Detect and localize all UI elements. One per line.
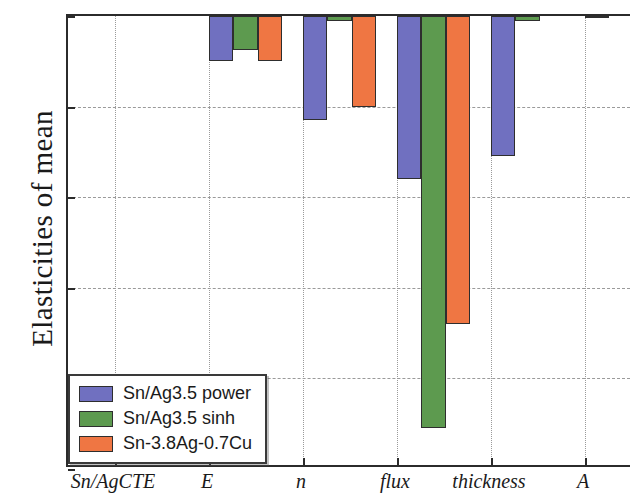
x-tick-mark bbox=[397, 458, 399, 465]
legend-item: Sn/Ag3.5 power bbox=[79, 381, 252, 406]
bar bbox=[515, 16, 539, 21]
x-tick-label: E bbox=[201, 470, 213, 493]
bar bbox=[352, 16, 376, 107]
x-tick-label: n bbox=[296, 470, 306, 493]
y-tick-mark bbox=[68, 197, 75, 199]
x-tick-mark bbox=[585, 458, 587, 465]
legend-item: Sn/Ag3.5 sinh bbox=[79, 406, 252, 431]
legend-item: Sn-3.8Ag-0.7Cu bbox=[79, 431, 252, 456]
x-tick-label: flux bbox=[380, 470, 410, 493]
legend-swatch bbox=[79, 436, 113, 452]
x-tick-label: A bbox=[577, 470, 589, 493]
legend-label: Sn/Ag3.5 sinh bbox=[123, 408, 235, 429]
bar bbox=[209, 16, 233, 61]
gridline-vertical bbox=[585, 16, 586, 465]
bar bbox=[585, 16, 609, 18]
bar bbox=[303, 16, 327, 120]
x-tick-mark bbox=[303, 458, 305, 465]
legend-label: Sn-3.8Ag-0.7Cu bbox=[123, 433, 252, 454]
bar bbox=[397, 16, 421, 179]
chart-figure: Elasticities of mean 0.0-0.2-0.4-0.6-0.8… bbox=[0, 0, 632, 494]
legend-swatch bbox=[79, 386, 113, 402]
y-tick-mark bbox=[68, 107, 75, 109]
bar bbox=[233, 16, 257, 50]
x-tick-mark bbox=[491, 458, 493, 465]
bar bbox=[421, 16, 445, 428]
bar bbox=[258, 16, 282, 61]
x-tick-label: Sn/AgCTE bbox=[71, 470, 155, 493]
bar bbox=[491, 16, 515, 156]
x-tick-label: thickness bbox=[452, 470, 525, 493]
bar bbox=[327, 16, 351, 21]
bar bbox=[446, 16, 470, 324]
gridline-horizontal bbox=[68, 197, 630, 198]
gridline-horizontal bbox=[68, 288, 630, 289]
chart-legend: Sn/Ag3.5 powerSn/Ag3.5 sinhSn-3.8Ag-0.7C… bbox=[68, 374, 267, 464]
legend-swatch bbox=[79, 411, 113, 427]
y-tick-mark bbox=[68, 16, 75, 18]
y-tick-mark bbox=[68, 288, 75, 290]
legend-label: Sn/Ag3.5 power bbox=[123, 383, 251, 404]
gridline-horizontal bbox=[68, 107, 630, 108]
y-axis-title: Elasticities of mean bbox=[26, 19, 59, 439]
